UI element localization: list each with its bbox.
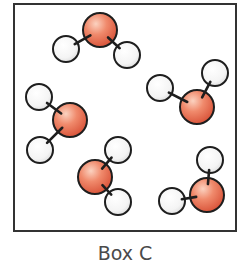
box-caption: Box C — [0, 242, 247, 264]
hydrogen-atom — [53, 36, 79, 62]
bond-line — [208, 170, 209, 184]
hydrogen-atom — [26, 84, 52, 110]
hydrogen-atom — [202, 60, 228, 86]
hydrogen-atom — [159, 188, 185, 214]
molecule-box-diagram — [0, 0, 247, 271]
oxygen-atom — [180, 90, 214, 124]
hydrogen-atom — [147, 75, 173, 101]
